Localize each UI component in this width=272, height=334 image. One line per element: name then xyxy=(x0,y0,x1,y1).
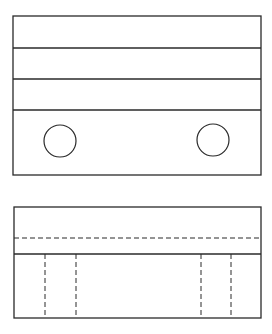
front-view-outline xyxy=(14,207,261,318)
front-view xyxy=(14,207,261,318)
hole-circle xyxy=(197,124,229,156)
hole-circle xyxy=(44,125,76,157)
orthographic-drawing xyxy=(0,0,272,334)
top-view xyxy=(13,16,261,175)
